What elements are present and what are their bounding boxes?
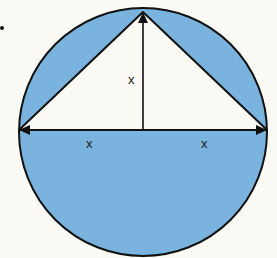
- height-label: x: [128, 72, 135, 87]
- right-half-label: x: [201, 136, 208, 151]
- circle-triangle-diagram: x x x: [0, 0, 277, 258]
- left-half-label: x: [86, 136, 93, 151]
- margin-dot: [0, 26, 4, 30]
